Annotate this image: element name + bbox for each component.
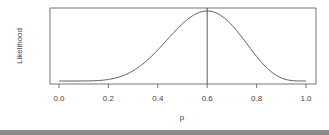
x-tick-label: 0.4 — [152, 94, 164, 103]
likelihood-curve — [59, 11, 306, 81]
x-tick-label: 0.2 — [103, 94, 115, 103]
x-axis-label: p — [180, 113, 185, 122]
plot-frame — [50, 8, 316, 84]
x-tick-label: 1.0 — [300, 94, 312, 103]
x-tick-label: 0.6 — [202, 94, 214, 103]
likelihood-chart: 0.00.20.40.60.81.0 p Likelihood — [0, 0, 329, 130]
bottom-divider-bar — [0, 130, 329, 135]
x-axis-ticks: 0.00.20.40.60.81.0 — [53, 84, 312, 103]
y-axis-label: Likelihood — [15, 28, 24, 64]
x-tick-label: 0.8 — [251, 94, 263, 103]
x-tick-label: 0.0 — [53, 94, 65, 103]
